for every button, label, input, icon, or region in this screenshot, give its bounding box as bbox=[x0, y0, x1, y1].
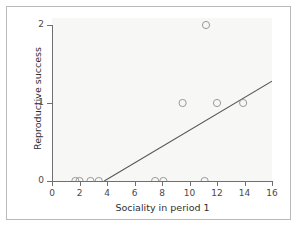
x-tick-label: 10 bbox=[177, 188, 203, 199]
scatter-point bbox=[152, 177, 159, 181]
x-tick-label: 6 bbox=[122, 188, 148, 199]
scatter-point bbox=[160, 177, 167, 181]
x-tick bbox=[80, 182, 81, 186]
scatter-point bbox=[179, 99, 186, 106]
scatter-point bbox=[213, 99, 220, 106]
scatter-points bbox=[72, 21, 247, 181]
x-tick-label: 16 bbox=[259, 188, 285, 199]
scatter-point bbox=[202, 21, 209, 28]
x-tick bbox=[162, 182, 163, 186]
x-tick-label: 4 bbox=[94, 188, 120, 199]
x-tick bbox=[272, 182, 273, 186]
scatter-point bbox=[201, 177, 208, 181]
x-tick bbox=[217, 182, 218, 186]
x-tick bbox=[245, 182, 246, 186]
scatter-point bbox=[240, 99, 247, 106]
x-axis-title: Sociality in period 1 bbox=[52, 202, 273, 213]
x-tick-label: 2 bbox=[67, 188, 93, 199]
x-tick bbox=[190, 182, 191, 186]
y-axis-title: Reproductive success bbox=[32, 17, 43, 180]
chart-figure: 0246810121416 012 Sociality in period 1 … bbox=[0, 0, 298, 227]
y-tick bbox=[47, 181, 52, 182]
data-layer bbox=[52, 18, 272, 181]
x-tick bbox=[135, 182, 136, 186]
scatter-point bbox=[95, 177, 102, 181]
x-tick bbox=[107, 182, 108, 186]
x-tick bbox=[52, 182, 53, 186]
scatter-point bbox=[76, 177, 83, 181]
scatter-point bbox=[87, 177, 94, 181]
x-tick-label: 14 bbox=[232, 188, 258, 199]
x-tick-label: 12 bbox=[204, 188, 230, 199]
x-tick-label: 0 bbox=[39, 188, 65, 199]
regression-line bbox=[104, 81, 272, 181]
x-tick-label: 8 bbox=[149, 188, 175, 199]
